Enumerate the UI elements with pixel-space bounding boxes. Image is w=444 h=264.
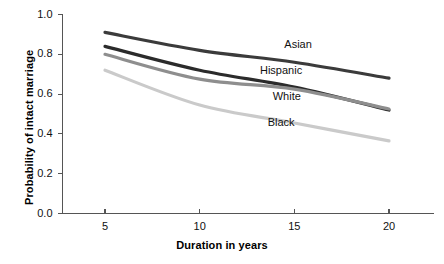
y-tick-label-0.8: 0.8 bbox=[23, 47, 53, 59]
series-label-asian: Asian bbox=[284, 38, 312, 50]
y-tick-label-0.0: 0.0 bbox=[23, 207, 53, 219]
x-tick-label-10: 10 bbox=[185, 220, 215, 232]
chart-container: Probability of intact marriage Duration … bbox=[0, 0, 444, 264]
y-tick-label-1.0: 1.0 bbox=[23, 8, 53, 20]
x-tick-label-5: 5 bbox=[90, 220, 120, 232]
series-line-white bbox=[105, 54, 389, 109]
chart-series-lines bbox=[105, 32, 389, 140]
y-tick-label-0.4: 0.4 bbox=[23, 127, 53, 139]
series-label-hispanic: Hispanic bbox=[260, 64, 302, 76]
x-tick-label-20: 20 bbox=[374, 220, 404, 232]
x-axis-title: Duration in years bbox=[0, 239, 444, 251]
series-label-black: Black bbox=[268, 116, 295, 128]
series-label-white: White bbox=[273, 90, 301, 102]
y-tick-label-0.2: 0.2 bbox=[23, 167, 53, 179]
x-tick-label-15: 15 bbox=[279, 220, 309, 232]
series-line-black bbox=[105, 70, 389, 141]
series-line-asian bbox=[105, 32, 389, 78]
y-tick-label-0.6: 0.6 bbox=[23, 87, 53, 99]
